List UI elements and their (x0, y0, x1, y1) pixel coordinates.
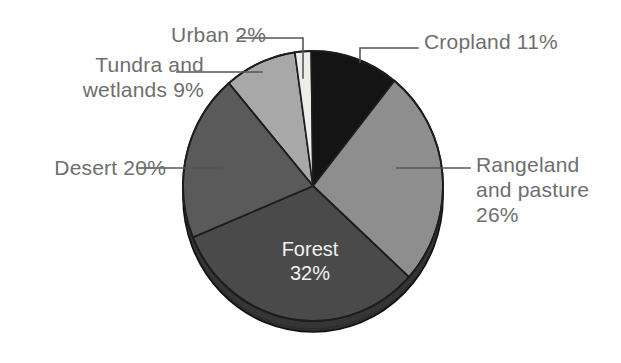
pie-label-urban: Urban 2% (116, 22, 266, 47)
pie-chart-page: Urban 2% Tundra and wetlands 9% Desert 2… (0, 0, 621, 363)
pie-label-desert: Desert 20% (14, 155, 166, 180)
pie-label-tundra: Tundra and wetlands 9% (36, 52, 204, 102)
pie-label-forest: Forest 32% (245, 237, 375, 285)
pie-label-cropland: Cropland 11% (424, 29, 614, 54)
leader-line-cropland (360, 48, 418, 62)
pie-label-rangeland: Rangeland and pasture 26% (476, 152, 621, 227)
